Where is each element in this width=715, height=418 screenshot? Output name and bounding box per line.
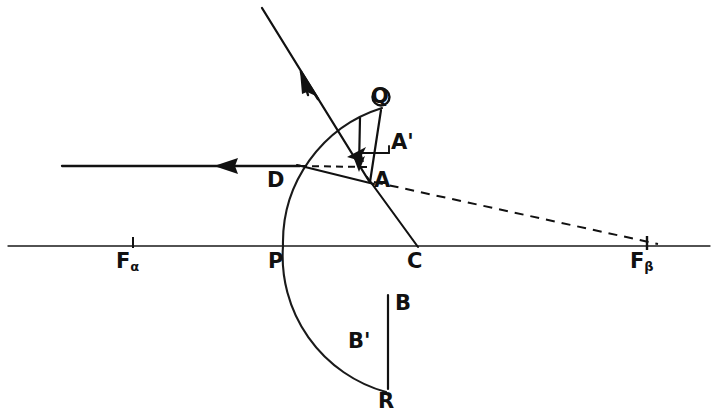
label-point-a-prime: A' [391,132,414,153]
optics-ray-diagram: Fα P C Fβ D A A' Q B B' R [0,0,715,418]
label-focus-beta-subscript: β [644,259,653,274]
label-focus-alpha-letter: F [116,249,130,273]
diagram-canvas [0,0,715,418]
label-point-a: A [374,170,390,191]
label-point-b: B [395,293,411,314]
label-point-q: Q [371,86,389,107]
label-center-c: C [407,251,422,272]
label-pole-p: P [268,251,283,272]
label-focus-alpha: Fα [116,251,139,272]
label-point-r: R [378,391,394,412]
mirror-arc [283,108,386,392]
arrowhead-horizontal-ray [214,158,238,174]
dashed-A-to-f-beta [374,182,658,244]
label-focus-beta-letter: F [630,249,644,273]
label-point-b-prime: B' [348,331,370,352]
label-focus-beta: Fβ [630,251,654,272]
label-point-d: D [267,170,284,191]
label-focus-alpha-subscript: α [130,259,139,274]
